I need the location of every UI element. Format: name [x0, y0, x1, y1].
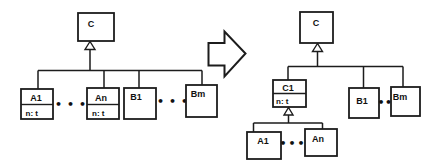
before-hierarchy: C A1 n: t ••• An n: t B1 ••• Bm [21, 13, 217, 119]
after-class-label-c: C [313, 18, 320, 28]
before-class-label-a1: A1 [30, 93, 42, 103]
after-class-label-an: An [312, 134, 324, 144]
before-class-label-bm: Bm [191, 89, 206, 99]
uml-refactoring-diagram: C A1 n: t ••• An n: t B1 ••• Bm [0, 0, 438, 168]
after-class-c1-attribute: n: t [276, 97, 289, 106]
before-class-box-c [78, 13, 114, 41]
before-class-label-c: C [88, 19, 95, 29]
before-class-an-attribute: n: t [92, 109, 105, 118]
right-block-arrow-icon [209, 32, 246, 77]
after-class-label-a1: A1 [257, 136, 269, 146]
before-class-label-b1: B1 [130, 92, 142, 102]
after-class-label-bm: Bm [393, 92, 408, 102]
after-inheritance-triangle-c-icon [313, 44, 323, 52]
before-class-a1-attribute: n: t [26, 109, 39, 118]
before-class-label-an: An [95, 93, 107, 103]
before-inheritance-triangle-icon [85, 42, 95, 50]
after-class-label-b1: B1 [356, 96, 368, 106]
after-ellipsis-a: ••• [279, 137, 306, 150]
transform-arrow [209, 32, 246, 77]
after-class-label-c1: C1 [282, 83, 294, 93]
after-inheritance-triangle-c1-icon [284, 108, 293, 116]
before-inheritance-edges [38, 50, 202, 90]
before-ellipsis-a: ••• [55, 98, 91, 111]
after-hierarchy: C C1 n: t A1 ••• An B1 •• Bm [247, 12, 420, 159]
diagram-svg: C A1 n: t ••• An n: t B1 ••• Bm [0, 0, 438, 168]
